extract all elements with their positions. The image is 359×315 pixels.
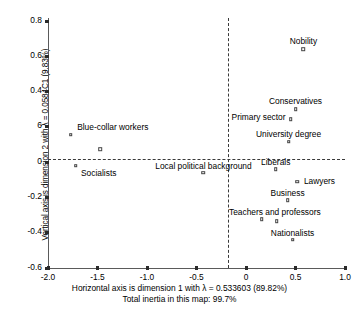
x-tick-label: -1.5 <box>90 272 104 282</box>
x-axis-title: Horizontal axis is dimension 1 with λ = … <box>0 283 359 293</box>
x-tick-label: -0.5 <box>189 272 203 282</box>
data-point-label: Nationalists <box>271 228 314 238</box>
x-tick: -1.0 <box>146 266 149 270</box>
y-tick: 0.6 <box>45 55 49 58</box>
data-point-marker <box>302 47 306 51</box>
data-point-label: Socialists <box>81 168 116 178</box>
data-point-marker <box>74 164 78 168</box>
x-tick-label: 0 <box>244 272 249 282</box>
x-tick: -1.5 <box>96 266 99 270</box>
data-point-marker <box>289 117 293 121</box>
data-point-marker <box>287 140 291 144</box>
y-tick-label: 0.6 <box>30 50 42 60</box>
x-tick: 1.0 <box>344 266 347 270</box>
x-tick-label: -1.0 <box>140 272 154 282</box>
y-tick: -0.2 <box>45 196 49 199</box>
y-tick-label: 0.4 <box>30 85 42 95</box>
data-point-label: Blue-collar workers <box>77 122 148 132</box>
x-tick-label: -2.0 <box>41 272 55 282</box>
y-tick-label: 0 <box>37 156 42 166</box>
data-point-marker <box>202 171 206 175</box>
data-point-marker <box>291 238 295 242</box>
zero-line-vertical <box>228 18 229 268</box>
y-tick: 6 <box>45 125 49 128</box>
data-point-label: Liberals <box>261 157 290 167</box>
correspondence-analysis-plot: Vertical axis is dimension 2 with λ = 0.… <box>0 0 359 315</box>
y-tick: -0.4 <box>45 231 49 234</box>
data-point-marker <box>294 107 298 111</box>
data-point-label: Local political background <box>155 161 251 171</box>
x-tick: -2.0 <box>47 266 50 270</box>
y-tick-label: -0.4 <box>28 226 42 236</box>
y-tick: 0 <box>45 161 49 164</box>
data-point-label: Teachers and professors <box>229 207 321 217</box>
data-point-marker <box>260 218 264 222</box>
y-tick-label: 6 <box>37 120 42 130</box>
x-tick-label: 0.5 <box>290 272 302 282</box>
total-inertia-caption: Total inertia in this map: 99.7% <box>0 294 359 304</box>
data-point-marker <box>286 198 290 202</box>
data-point-label: Nobility <box>290 36 317 46</box>
data-point-marker <box>69 133 73 137</box>
data-point-label: Primary sector <box>232 112 286 122</box>
data-point-label: University degree <box>256 129 321 139</box>
data-point-marker <box>296 180 300 184</box>
y-tick-label: 0.8 <box>30 15 42 25</box>
data-point-marker <box>99 147 103 151</box>
x-tick: -0.5 <box>195 266 198 270</box>
y-tick-label: -0.6 <box>28 262 42 272</box>
y-tick-label: -0.2 <box>28 191 42 201</box>
data-point-label: Lawyers <box>304 176 335 186</box>
data-point-marker <box>274 167 278 171</box>
x-tick: 0.5 <box>294 266 297 270</box>
data-point-label: Conservatives <box>269 96 322 106</box>
data-point-label: Business <box>271 188 305 198</box>
x-tick-label: 1.0 <box>339 272 351 282</box>
data-point-marker <box>275 219 279 223</box>
x-tick: 0 <box>245 266 248 270</box>
y-tick: 0.4 <box>45 90 49 93</box>
y-tick: 0.8 <box>45 20 49 23</box>
